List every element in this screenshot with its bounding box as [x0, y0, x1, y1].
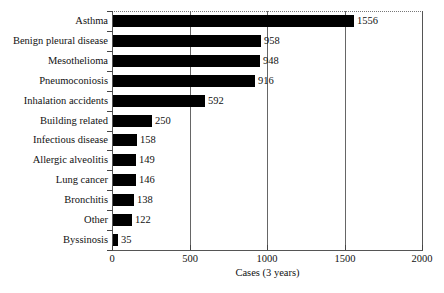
bar-value-label: 138 [137, 194, 153, 206]
bar [113, 55, 260, 67]
bar [113, 115, 152, 127]
category-label: Inhalation accidents [0, 95, 108, 107]
bar [113, 194, 134, 206]
bar-value-label: 1556 [357, 15, 378, 27]
y-tick-4 [107, 91, 113, 92]
category-label: Benign pleural disease [0, 35, 108, 47]
y-tick-11 [107, 230, 113, 231]
x-tick-1000 [267, 245, 268, 250]
category-label: Asthma [0, 15, 108, 27]
y-tick-3 [107, 71, 113, 72]
bar-value-label: 35 [121, 234, 132, 246]
bar-value-label: 146 [139, 174, 155, 186]
plot-right-border [422, 11, 423, 251]
bar [113, 35, 261, 47]
bar [113, 154, 136, 166]
category-label: Allergic alveolitis [0, 154, 108, 166]
x-tick-2000 [422, 245, 423, 250]
bar-value-label: 158 [140, 134, 156, 146]
y-tick-1 [107, 31, 113, 32]
x-axis-title: Cases (3 years) [112, 267, 423, 278]
y-tick-8 [107, 170, 113, 171]
bar-value-label: 958 [264, 35, 280, 47]
x-tick-1500 [345, 245, 346, 250]
y-tick-7 [107, 150, 113, 151]
x-tick-label-0: 0 [82, 253, 142, 265]
category-label: Pneumoconiosis [0, 75, 108, 87]
bar-chart: 0500100015002000 15569589489165922501581… [0, 0, 444, 293]
y-tick-9 [107, 190, 113, 191]
bar-value-label: 149 [139, 154, 155, 166]
category-label: Other [0, 214, 108, 226]
bar [113, 134, 137, 146]
x-tick-500 [190, 245, 191, 250]
gridline-1500 [345, 11, 346, 250]
x-tick-label-2000: 2000 [392, 253, 444, 265]
y-tick-12 [107, 250, 113, 251]
category-label: Infectious disease [0, 134, 108, 146]
bar [113, 174, 136, 186]
y-tick-0 [107, 11, 113, 12]
category-label: Bronchitis [0, 194, 108, 206]
y-tick-5 [107, 111, 113, 112]
category-label: Building related [0, 115, 108, 127]
bar-value-label: 250 [155, 115, 171, 127]
bar-value-label: 916 [258, 75, 274, 87]
x-tick-label-1000: 1000 [237, 253, 297, 265]
bar [113, 15, 354, 27]
bar [113, 75, 255, 87]
x-tick-label-1500: 1500 [315, 253, 375, 265]
category-label: Lung cancer [0, 174, 108, 186]
bar-value-label: 122 [135, 214, 151, 226]
bar [113, 214, 132, 226]
x-tick-label-500: 500 [160, 253, 220, 265]
y-tick-2 [107, 51, 113, 52]
bar [113, 95, 205, 107]
y-tick-10 [107, 210, 113, 211]
y-tick-6 [107, 131, 113, 132]
bar [113, 234, 118, 246]
category-label: Byssinosis [0, 234, 108, 246]
x-axis-line [112, 250, 423, 251]
category-label: Mesothelioma [0, 55, 108, 67]
bar-value-label: 948 [263, 55, 279, 67]
bar-value-label: 592 [208, 95, 224, 107]
